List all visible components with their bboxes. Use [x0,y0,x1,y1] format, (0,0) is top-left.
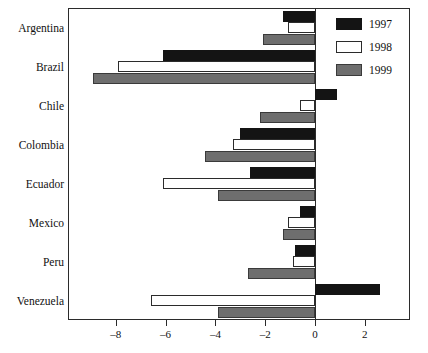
bar-ecuador-1998 [163,178,315,189]
bar-argentina-1999 [263,34,315,45]
bar-peru-1997 [295,245,315,256]
x-tick-0 [116,320,117,326]
category-label-chile: Chile [0,100,64,112]
category-label-argentina: Argentina [0,22,64,34]
category-label-colombia: Colombia [0,139,64,151]
x-tick-5 [365,320,366,326]
x-tick-2 [215,320,216,326]
bar-venezuela-1998 [151,295,315,306]
chart-container: ArgentinaBrazilChileColombiaEcuadorMexic… [0,0,428,353]
legend-label: 1998 [369,41,392,53]
x-tick-4 [315,320,316,326]
legend-item-1997[interactable]: 1997 [336,14,406,33]
category-label-ecuador: Ecuador [0,178,64,190]
bar-ecuador-1999 [218,190,315,201]
bar-peru-1998 [293,256,315,267]
x-tick-label-5: 2 [362,328,368,340]
bar-brazil-1998 [118,61,315,72]
zero-axis-line [315,8,316,320]
bar-argentina-1998 [288,22,315,33]
bar-venezuela-1997 [315,284,380,295]
bar-mexico-1998 [288,217,315,228]
x-tick-label-1: –6 [160,328,171,340]
bar-peru-1999 [248,268,315,279]
legend-label: 1999 [369,64,392,76]
black-swatch [336,18,362,30]
category-label-brazil: Brazil [0,61,64,73]
x-tick-1 [166,320,167,326]
bar-chile-1997 [315,89,337,100]
x-tick-label-2: –4 [210,328,221,340]
x-tick-label-0: –8 [110,328,121,340]
bar-mexico-1999 [283,229,315,240]
bar-argentina-1997 [283,11,315,22]
x-tick-label-4: 0 [312,328,318,340]
legend-label: 1997 [369,18,392,30]
bar-colombia-1999 [205,151,315,162]
category-label-mexico: Mexico [0,217,64,229]
x-tick-label-3: –2 [260,328,271,340]
white-swatch [336,41,362,53]
bar-brazil-1997 [163,50,315,61]
bar-colombia-1998 [233,139,315,150]
bar-venezuela-1999 [218,307,315,318]
legend: 199719981999 [336,14,406,83]
bar-chile-1999 [260,112,315,123]
x-tick-3 [265,320,266,326]
category-label-peru: Peru [0,256,64,268]
legend-item-1999[interactable]: 1999 [336,60,406,79]
bar-mexico-1997 [300,206,315,217]
bar-ecuador-1997 [250,167,315,178]
legend-item-1998[interactable]: 1998 [336,37,406,56]
category-label-venezuela: Venezuela [0,295,64,307]
bar-chile-1998 [300,100,315,111]
bar-brazil-1999 [93,73,315,84]
bar-colombia-1997 [240,128,315,139]
gray-swatch [336,64,362,76]
